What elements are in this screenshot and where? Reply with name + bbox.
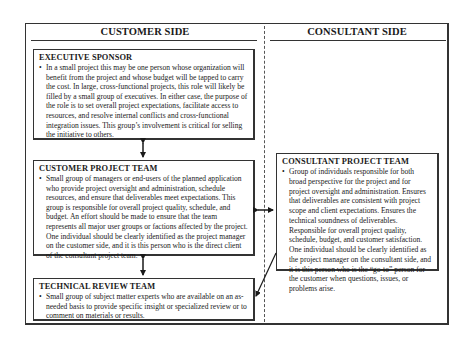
consultant-project-team-title: CONSULTANT PROJECT TEAM [282, 157, 432, 166]
customer-project-team-description: • Small group of managers or end-users o… [39, 174, 248, 260]
consultant-side-header: CONSULTANT SIDE [268, 26, 446, 37]
technical-review-team-description: • Small group of subject matter experts … [39, 292, 248, 321]
customer-project-team-title: CUSTOMER PROJECT TEAM [39, 164, 248, 173]
consultant-project-team-box: CONSULTANT PROJECT TEAM • Group of indiv… [276, 153, 439, 271]
executive-sponsor-title: EXECUTIVE SPONSOR [39, 53, 248, 62]
executive-sponsor-box: EXECUTIVE SPONSOR • In a small project t… [33, 49, 255, 140]
side-divider-dashed-line [264, 26, 265, 322]
customer-project-team-text: Small group of managers or end-users of … [46, 174, 248, 260]
consultant-project-team-text: Group of individuals responsible for bot… [289, 167, 431, 293]
customer-side-header: CUSTOMER SIDE [30, 26, 260, 37]
bullet-icon: • [39, 174, 42, 184]
consultant-header-rule [270, 40, 446, 41]
technical-review-team-title: TECHNICAL REVIEW TEAM [39, 282, 248, 291]
executive-sponsor-description: • In a small project this may be one per… [39, 63, 248, 140]
bullet-icon: • [39, 292, 42, 302]
executive-sponsor-text: In a small project this may be one perso… [46, 63, 247, 139]
customer-header-rule [31, 40, 257, 41]
bullet-icon: • [39, 63, 42, 73]
technical-review-team-text: Small group of subject matter experts wh… [46, 292, 247, 320]
consultant-project-team-description: • Group of individuals responsible for b… [282, 167, 432, 294]
technical-review-team-box: TECHNICAL REVIEW TEAM • Small group of s… [33, 278, 255, 321]
customer-project-team-box: CUSTOMER PROJECT TEAM • Small group of m… [33, 160, 255, 256]
bullet-icon: • [282, 167, 285, 177]
